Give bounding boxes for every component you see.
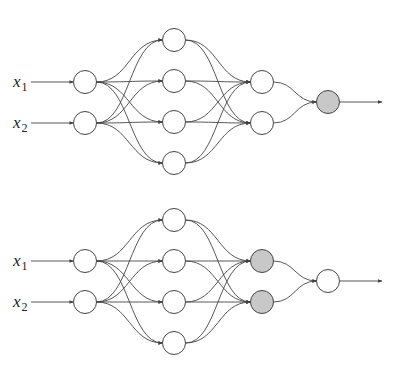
neuron-layer-1 [163,332,186,355]
neuron-layer-0 [74,250,97,273]
connection-edge [274,261,317,281]
bottom-network: x1x2 [12,209,382,355]
neuron-layer-0 [74,71,97,94]
connection-edge [186,82,251,122]
connection-edge [97,81,163,123]
connection-edge [186,302,251,343]
connection-edge [186,123,251,163]
neuron-layer-0 [74,291,97,314]
connection-edge [97,123,163,163]
input-label: x1 [12,251,28,273]
highlighted-neuron-layer-3 [317,91,340,114]
connection-edge [97,302,163,343]
input-subscript: 2 [22,300,28,314]
connection-edge [186,261,251,302]
input-label: x2 [12,113,28,135]
neuron-layer-2 [251,112,274,135]
connection-edge [186,82,251,163]
neural-network-diagram: x1x2 x1x2 [0,0,401,377]
neuron-layer-1 [163,209,186,232]
neuron-layer-1 [163,291,186,314]
connection-edge [186,81,251,82]
connection-edge [97,261,163,302]
connection-edge [186,40,251,82]
input-label: x1 [12,72,28,94]
nodes [74,29,340,175]
highlighted-neuron-layer-2 [251,250,274,273]
input-subscript: 2 [22,121,28,135]
neuron-layer-3 [317,270,340,293]
connection-edge [97,40,163,123]
neuron-layer-1 [163,111,186,134]
input-label: x2 [12,292,28,314]
connection-edge [274,281,317,302]
neuron-layer-0 [74,112,97,135]
neuron-layer-1 [163,250,186,273]
connection-edge [97,122,163,123]
neuron-layer-1 [163,152,186,175]
neuron-layer-1 [163,29,186,52]
connection-edge [274,82,317,102]
input-subscript: 1 [22,80,28,94]
connection-edge [186,220,251,261]
highlighted-neuron-layer-2 [251,291,274,314]
connection-edge [97,220,163,261]
input-subscript: 1 [22,259,28,273]
nodes [74,209,340,355]
neuron-layer-1 [163,70,186,93]
neuron-layer-2 [251,71,274,94]
top-network: x1x2 [12,29,382,175]
connection-edge [97,40,163,82]
connection-edge [274,102,317,123]
